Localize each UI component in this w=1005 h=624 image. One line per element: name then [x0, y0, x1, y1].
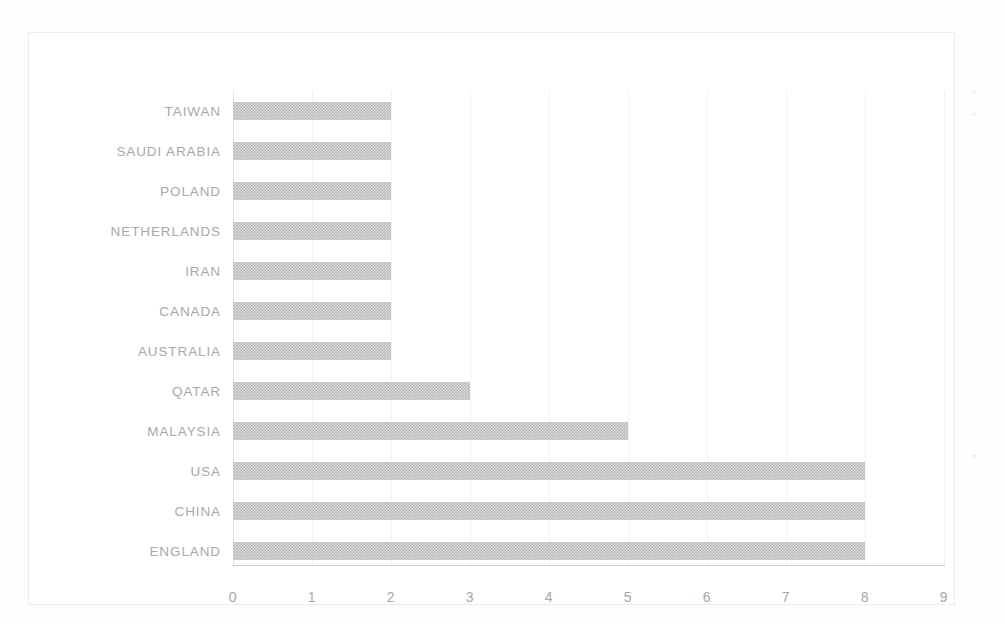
x-axis-line: [233, 565, 945, 566]
category-label: SAUDI ARABIA: [116, 144, 221, 159]
x-tick-label: 7: [782, 589, 790, 605]
category-label: AUSTRALIA: [138, 344, 221, 359]
bar: [233, 542, 865, 560]
bar-row: QATAR: [233, 371, 944, 411]
x-tick-label: 0: [229, 589, 237, 605]
bar-row: SAUDI ARABIA: [233, 131, 944, 171]
category-label: TAIWAN: [165, 104, 221, 119]
x-tick-label: 5: [624, 589, 632, 605]
bar-row: TAIWAN: [233, 91, 944, 131]
bar: [233, 222, 391, 240]
scan-speck-top: *: [972, 88, 976, 100]
category-label: QATAR: [172, 384, 221, 399]
plot-area: TAIWANSAUDI ARABIAPOLANDNETHERLANDSIRANC…: [233, 91, 944, 565]
x-tick-label: 6: [703, 589, 711, 605]
category-label: NETHERLANDS: [111, 224, 221, 239]
bar: [233, 342, 391, 360]
x-tick-label: 1: [308, 589, 316, 605]
bar: [233, 382, 470, 400]
bar-row: AUSTRALIA: [233, 331, 944, 371]
category-label: ENGLAND: [149, 544, 221, 559]
bar: [233, 302, 391, 320]
x-axis-tick-labels: 0123456789: [233, 589, 945, 615]
x-tick-label: 9: [940, 589, 948, 605]
category-label: MALAYSIA: [147, 424, 221, 439]
bar-row: POLAND: [233, 171, 944, 211]
bar: [233, 462, 865, 480]
category-label: POLAND: [160, 184, 221, 199]
scan-speck-mid: *: [972, 452, 976, 464]
bar-row: CHINA: [233, 491, 944, 531]
bar: [233, 502, 865, 520]
bar: [233, 142, 391, 160]
x-tick-label: 3: [466, 589, 474, 605]
bar: [233, 262, 391, 280]
scanned-page: TAIWANSAUDI ARABIAPOLANDNETHERLANDSIRANC…: [0, 0, 1005, 624]
scan-speck-top2: *: [972, 110, 976, 122]
category-label: USA: [191, 464, 221, 479]
bar-row: USA: [233, 451, 944, 491]
gridline-9: [944, 91, 945, 565]
category-label: IRAN: [185, 264, 221, 279]
bar-row: MALAYSIA: [233, 411, 944, 451]
x-tick-label: 2: [387, 589, 395, 605]
x-tick-label: 8: [861, 589, 869, 605]
bar: [233, 422, 628, 440]
bar-row: NETHERLANDS: [233, 211, 944, 251]
category-label: CHINA: [174, 504, 221, 519]
bar: [233, 102, 391, 120]
bar-row: IRAN: [233, 251, 944, 291]
category-label: CANADA: [159, 304, 221, 319]
x-tick-label: 4: [545, 589, 553, 605]
bar-row: CANADA: [233, 291, 944, 331]
bar: [233, 182, 391, 200]
chart-frame: TAIWANSAUDI ARABIAPOLANDNETHERLANDSIRANC…: [28, 32, 955, 605]
